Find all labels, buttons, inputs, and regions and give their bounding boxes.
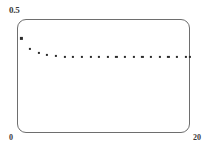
chart-figure: 0.5 0 20 [0,0,211,151]
plot-frame [17,19,190,133]
x-axis-max-label: 20 [193,134,201,142]
y-axis-max-label: 0.5 [9,6,20,15]
y-axis-min-label: 0 [9,134,13,142]
